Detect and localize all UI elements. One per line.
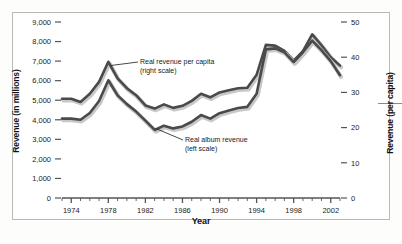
- series-shadow: [63, 36, 341, 110]
- x-tick-label: 1982: [137, 206, 154, 215]
- y-tick-label-left: 8,000: [32, 37, 51, 46]
- y-tick-label-left: 3,000: [32, 135, 51, 144]
- x-tick-label: 1998: [285, 206, 302, 215]
- y-axis-right-ticks: 01020304050: [341, 18, 359, 203]
- y-tick-label-left: 1,000: [32, 174, 51, 183]
- y-tick-label-left: 4,000: [32, 116, 51, 125]
- y-tick-label-left: 2,000: [32, 155, 51, 164]
- y-axis-left-ticks: 01,0002,0003,0004,0005,0006,0007,0008,00…: [32, 18, 61, 203]
- y-tick-label-left: 6,000: [32, 76, 51, 85]
- y-tick-label-left: 5,000: [32, 96, 51, 105]
- y-tick-label-left: 0: [47, 194, 51, 203]
- chart-plot-area: 01,0002,0003,0004,0005,0006,0007,0008,00…: [0, 0, 402, 244]
- y-tick-label-left: 7,000: [32, 57, 51, 66]
- y-tick-label-right: 30: [351, 88, 359, 97]
- x-tick-label: 1974: [63, 206, 80, 215]
- x-axis: 19741978198219861990199419982002: [62, 198, 340, 215]
- x-tick-label: 1978: [100, 206, 117, 215]
- y-tick-label-right: 40: [351, 53, 359, 62]
- annot-real-revenue-per-capita-leader: [110, 62, 138, 66]
- y-tick-label-right: 20: [351, 123, 359, 132]
- x-tick-label: 1986: [174, 206, 191, 215]
- x-tick-label: 1994: [248, 206, 265, 215]
- annot-real-album-revenue-line1: Real album revenue: [185, 136, 248, 143]
- y-tick-label-right: 10: [351, 159, 359, 168]
- series-line-real-album-revenue: [62, 41, 340, 130]
- line-chart: 01,0002,0003,0004,0005,0006,0007,0008,00…: [0, 0, 402, 244]
- annot-real-revenue-per-capita-line1: Real revenue per capita: [140, 58, 214, 66]
- y-tick-label-right: 50: [351, 18, 359, 27]
- x-tick-label: 1990: [211, 206, 228, 215]
- data-lines: [62, 34, 341, 131]
- y-tick-label-right: 0: [351, 194, 355, 203]
- x-tick-label: 2002: [322, 206, 339, 215]
- figure-page: Revenue (in millions) Revenue (per capit…: [0, 0, 402, 244]
- annot-real-album-revenue-line2: (left scale): [185, 145, 217, 153]
- y-tick-label-left: 9,000: [32, 18, 51, 27]
- annot-real-revenue-per-capita-line2: (right scale): [140, 67, 177, 75]
